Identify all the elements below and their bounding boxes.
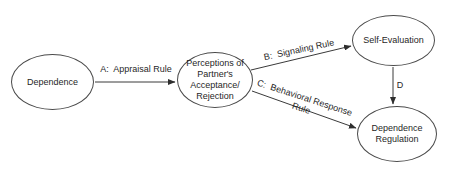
node-dependence: Dependence: [11, 54, 94, 110]
dependence-regulation-diagram: Dependence Perceptions of Partner's Acce…: [0, 0, 451, 169]
node-perceptions-of-partners-acceptance-rejection: Perceptions of Partner's Acceptance/ Rej…: [177, 52, 253, 108]
edge-label-appraisal-rule: A: Appraisal Rule: [100, 64, 172, 75]
node-self-evaluation: Self-Evaluation: [352, 15, 435, 66]
node-dependence-regulation: Dependence Regulation: [357, 106, 437, 162]
edge-label-d: D: [397, 80, 404, 91]
